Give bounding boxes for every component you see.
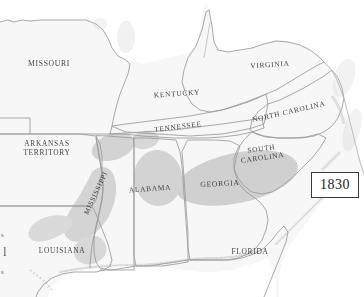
- historical-map: MISSOURI ARKANSAS TERRITORY LOUISIANA MI…: [0, 0, 364, 297]
- map-graphic: [0, 0, 364, 297]
- year-box-label: 1830: [320, 177, 350, 193]
- year-box: 1830: [311, 172, 359, 198]
